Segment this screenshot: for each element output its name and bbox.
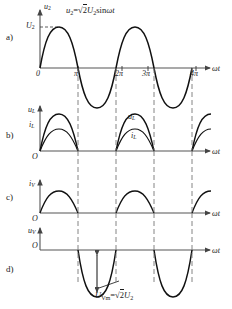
panel-b-curve-label-ul: uL bbox=[128, 112, 135, 121]
panel-d-x-axis-label: ωt bbox=[212, 246, 220, 255]
panel-a-equation: u2=√2U2sinωt bbox=[66, 5, 115, 16]
panel-a-origin-label: 0 bbox=[36, 69, 40, 78]
panel-b-x-axis-label: ωt bbox=[212, 147, 220, 156]
panel-b-curve-il bbox=[40, 129, 211, 151]
panel-c-x-axis-label: ωt bbox=[212, 209, 220, 218]
panel-c-origin-label: O bbox=[32, 214, 38, 223]
panel-a-xtick-4pi: 4π bbox=[190, 69, 198, 78]
panel-a-xtick-2pi: 2π bbox=[115, 69, 123, 78]
panel-a-x-axis-label: ωt bbox=[212, 64, 220, 73]
panel-d-origin-label: O bbox=[32, 241, 38, 250]
panel-c-y-axis-label: iV bbox=[29, 179, 35, 188]
panel-a-axes bbox=[40, 10, 210, 71]
panel-label-a: a) bbox=[6, 32, 13, 42]
panel-b-curve-label-il: iL bbox=[131, 131, 136, 140]
panel-a-y-axis-label: u2 bbox=[44, 2, 51, 11]
panel-a-y-tick-U2: U2 bbox=[26, 21, 35, 30]
panel-a-xtick-3pi: 3π bbox=[142, 69, 150, 78]
panel-b-origin-label: O bbox=[32, 152, 38, 161]
panel-a-xtick-pi: π bbox=[74, 69, 78, 78]
panel-label-c: c) bbox=[6, 192, 13, 202]
panel-b-y-axis-label-ul: uL bbox=[28, 105, 35, 114]
panel-b-curve-ul bbox=[40, 114, 211, 151]
panel-label-d: d) bbox=[6, 264, 14, 274]
panel-d-y-axis-label: uV bbox=[28, 226, 36, 235]
waveform-figure: a) u2 U2 u2=√2U2sinωt 0 π 2π 3π 4π ωt b)… bbox=[0, 0, 232, 309]
panel-b-axes bbox=[40, 106, 210, 151]
guide-lines bbox=[78, 68, 192, 285]
panel-b-y-axis-label-il: iL bbox=[29, 120, 34, 129]
panel-d-axes bbox=[40, 228, 210, 250]
panel-c-curve-iv bbox=[40, 191, 211, 213]
panel-label-b: b) bbox=[6, 130, 14, 140]
panel-d-annotation: UVm=√2U2 bbox=[95, 290, 133, 301]
